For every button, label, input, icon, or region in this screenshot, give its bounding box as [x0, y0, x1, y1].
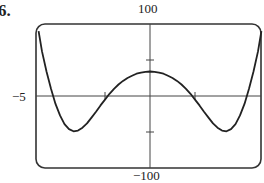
graph — [0, 0, 264, 183]
